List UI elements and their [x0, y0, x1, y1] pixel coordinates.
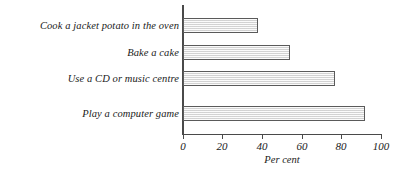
x-tick-label-3: 60	[282, 139, 322, 153]
bar-cook-a-jacket-potato-in-the-oven	[183, 18, 258, 33]
category-label-1: Bake a cake	[0, 45, 179, 60]
bar-chart: Cook a jacket potato in the oven Bake a …	[0, 0, 406, 173]
value-axis-line	[182, 134, 382, 135]
bar-play-a-computer-game	[183, 106, 365, 121]
bar-bake-a-cake	[183, 45, 290, 60]
x-tick-label-4: 80	[321, 139, 361, 153]
x-tick-label-2: 40	[242, 139, 282, 153]
category-label-3: Play a computer game	[0, 106, 179, 121]
x-tick-label-0: 0	[163, 139, 203, 153]
bar-use-a-cd-or-music-centre	[183, 71, 335, 86]
x-tick-label-5: 100	[361, 139, 401, 153]
x-tick-label-1: 20	[202, 139, 242, 153]
category-label-2: Use a CD or music centre	[0, 71, 179, 86]
category-label-0: Cook a jacket potato in the oven	[0, 18, 179, 33]
x-axis-title: Per cent	[183, 154, 381, 165]
